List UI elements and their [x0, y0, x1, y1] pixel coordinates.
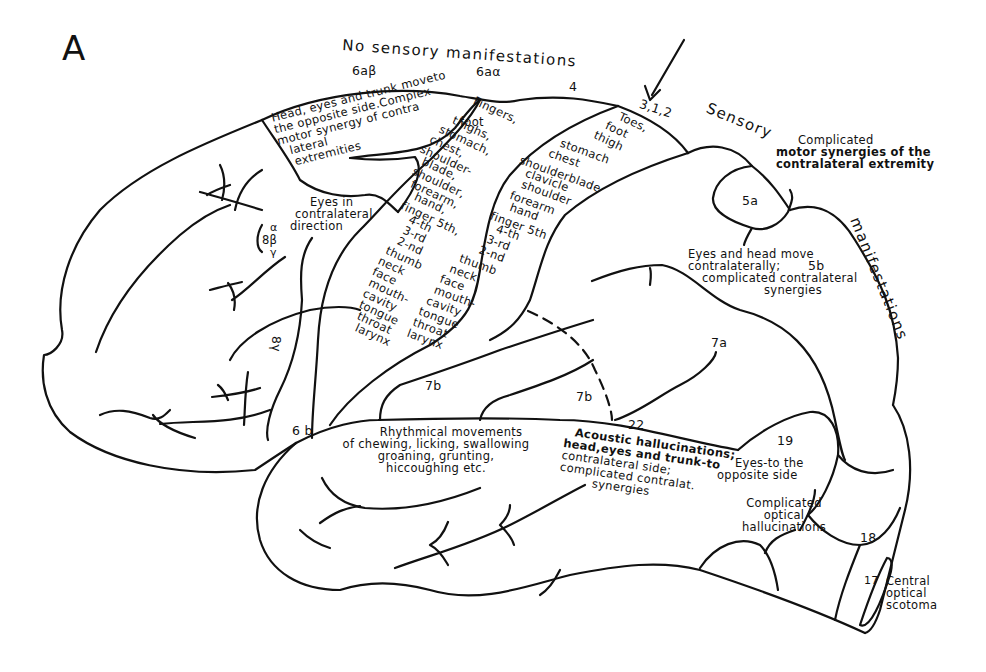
- area-label-5a: 5a: [742, 194, 758, 208]
- area-label-18: 18: [860, 531, 877, 545]
- area-label-4: 4: [569, 80, 577, 94]
- area-label-6b: 6 b: [292, 424, 313, 438]
- annotation-area-5b: Eyes and head move contralaterally; comp…: [688, 248, 857, 296]
- annotation-area-19-eyes: Eyes-to the opposite side: [717, 457, 804, 481]
- area-label-7a: 7a: [711, 336, 727, 350]
- annotation-rhythmical-movements: Rhythmical movements of chewing, licking…: [331, 426, 541, 474]
- area-label-8-beta: 8β: [262, 234, 277, 247]
- area-label-8-gamma: γ: [270, 247, 277, 259]
- area-label-8-gamma-vertical: 8γ: [269, 336, 283, 352]
- panel-letter: A: [62, 30, 85, 67]
- annotation-area-312-somatotopy: Toes, foot thigh stomach chest shoulderb…: [440, 116, 648, 381]
- area-label-17: 17: [864, 575, 879, 587]
- brain-cortex-map-diagram: A No sensory manifestations Sensory mani…: [0, 0, 986, 672]
- annotation-central-optical-scotoma: Central optical scotoma: [886, 575, 937, 611]
- area-label-6aa: 6aα: [476, 65, 501, 79]
- area-label-6ab: 6aβ: [352, 64, 377, 78]
- annotation-optical-hallucinations: Complicated optical hallucinations: [734, 497, 834, 533]
- annotation-complicated-motor-synergies: Complicated motor synergies of the contr…: [776, 134, 934, 170]
- area-label-19: 19: [777, 434, 794, 448]
- arrow-line: [652, 40, 684, 95]
